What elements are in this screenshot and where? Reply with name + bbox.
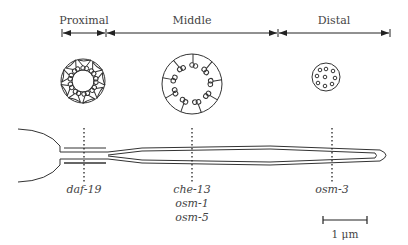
gene-label-osm-5: osm-5 <box>175 211 208 224</box>
proximal-cross-section <box>61 59 105 103</box>
scale-bar-label: 1 μm <box>332 228 359 240</box>
region-label-proximal: Proximal <box>59 14 109 27</box>
gene-marker-lines <box>84 128 332 182</box>
region-brackets <box>62 29 390 37</box>
gene-label-che-13: che-13 <box>173 183 210 196</box>
gene-label-osm-1: osm-1 <box>175 197 208 210</box>
scale-bar <box>323 216 367 224</box>
gene-label-osm-3: osm-3 <box>315 183 348 196</box>
region-label-distal: Distal <box>318 14 351 27</box>
distal-cross-section <box>312 63 340 91</box>
middle-cross-section <box>162 54 223 114</box>
region-label-middle: Middle <box>173 14 212 27</box>
cilium-diagram: Proximal Middle Distal <box>0 0 408 245</box>
gene-label-daf-19: daf-19 <box>67 183 102 196</box>
cilium-longitudinal <box>18 129 386 182</box>
